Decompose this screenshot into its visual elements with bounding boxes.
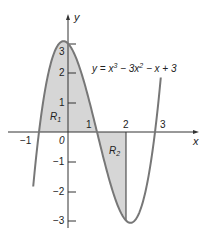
x-tick-label-3: 3 <box>160 120 166 130</box>
x-axis-label: x <box>193 136 199 147</box>
y-tick-label-3: 3 <box>59 47 65 57</box>
equation-label: y = x3 − 3x2 − x + 3 <box>92 64 177 74</box>
x-tick-label-2: 2 <box>123 120 129 130</box>
y-tick-label-1: 1 <box>59 98 65 108</box>
y-tick-label-m2: −2 <box>53 187 64 197</box>
y-tick-label-m1: −1 <box>53 157 64 167</box>
region-r2-label: R2 <box>109 146 120 156</box>
y-tick-label-2: 2 <box>59 68 65 78</box>
cubic-graph <box>0 0 210 235</box>
x-tick-label-m1: −1 <box>20 136 31 146</box>
y-tick-label-m3: −3 <box>53 216 64 226</box>
x-tick-label-1: 1 <box>86 120 92 130</box>
y-axis-arrow-icon <box>66 14 70 20</box>
region-r1-label: R1 <box>50 112 61 122</box>
x-axis-arrow-icon <box>193 130 199 134</box>
y-axis-label: y <box>74 12 80 23</box>
origin-label: 0 <box>59 136 65 146</box>
